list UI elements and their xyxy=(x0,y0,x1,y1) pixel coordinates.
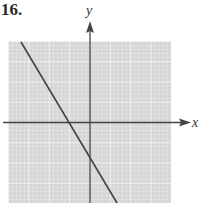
x-axis-label: x xyxy=(191,115,199,130)
graph: x y xyxy=(0,0,199,209)
y-axis-label: y xyxy=(84,3,93,18)
